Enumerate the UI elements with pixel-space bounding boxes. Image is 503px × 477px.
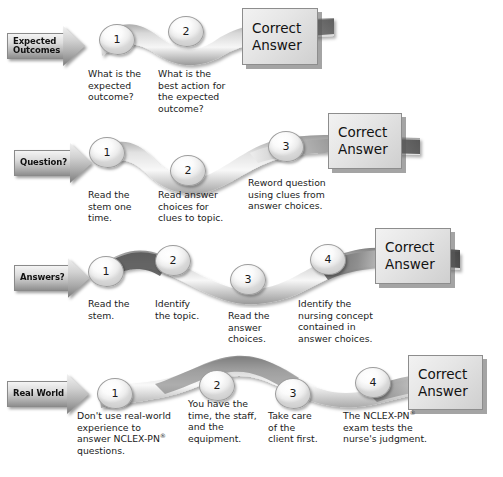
step-bubble-1: 1 <box>97 378 133 409</box>
arrow-body: Question? <box>14 150 71 176</box>
step-number: 2 <box>214 379 221 392</box>
step-caption-3: Take care of the client first. <box>268 410 334 445</box>
step-caption-2: Read answer choices for clues to topic. <box>158 189 236 224</box>
step-number: 1 <box>112 387 119 400</box>
step-number: 3 <box>290 387 297 400</box>
step-caption-1: Read the stem one time. <box>88 189 150 224</box>
step-bubble-3: 3 <box>230 264 266 295</box>
step-number: 2 <box>185 164 192 177</box>
flow-row-expected-outcomes: Expected Outcomes 1 2 Correct Answer Wha… <box>0 0 503 115</box>
arrow-label: Expected Outcomes <box>13 37 60 56</box>
entry-arrow-answers: Answers? <box>14 258 90 298</box>
step-bubble-2: 2 <box>170 155 206 186</box>
step-caption-4: Identify the nursing concept contained i… <box>298 298 398 344</box>
step-bubble-4: 4 <box>310 244 346 275</box>
step-number: 2 <box>170 254 177 267</box>
step-caption-3: Reword question using clues from answer … <box>248 177 340 212</box>
answer-line-2: Answer <box>243 37 317 54</box>
step-number: 2 <box>183 25 190 38</box>
step-caption-1: Don't use real-worldexperience toanswer … <box>77 410 187 456</box>
answer-line-1: Correct <box>376 239 450 256</box>
arrow-body: Real World <box>7 381 68 407</box>
step-bubble-4: 4 <box>355 367 391 398</box>
arrow-body: Answers? <box>14 265 69 291</box>
flow-row-real-world: Real World 1 2 3 4 Correct Answer Don't … <box>0 348 503 477</box>
arrow-head-icon <box>67 374 89 414</box>
correct-answer-box-row-3: Correct Answer <box>375 228 451 284</box>
step-bubble-2: 2 <box>155 245 191 276</box>
step-number: 1 <box>114 33 121 46</box>
step-caption-2: Identify the topic. <box>155 298 221 321</box>
step-number: 4 <box>325 253 332 266</box>
step-caption-2: You have the time, the staff, and the eq… <box>188 398 266 444</box>
correct-answer-box-row-2: Correct Answer <box>328 113 402 169</box>
arrow-label: Answers? <box>20 273 65 283</box>
answer-line-2: Answer <box>409 383 482 400</box>
step-bubble-1: 1 <box>99 24 135 55</box>
step-number: 3 <box>245 273 252 286</box>
correct-answer-box-row-4: Correct Answer <box>408 355 483 410</box>
step-bubble-1: 1 <box>88 256 124 287</box>
entry-arrow-expected-outcomes: Expected Outcomes <box>7 26 85 66</box>
step-bubble-3: 3 <box>275 378 311 409</box>
answer-line-1: Correct <box>409 366 482 383</box>
step-number: 3 <box>283 140 290 153</box>
step-caption-3: Read the answer choices. <box>228 310 290 345</box>
answer-line-2: Answer <box>376 256 450 273</box>
step-caption-4: The NCLEX-PN®exam tests thenurse's judgm… <box>343 410 453 445</box>
step-number: 1 <box>103 265 110 278</box>
entry-arrow-question: Question? <box>14 143 92 183</box>
correct-answer-box-row-1: Correct Answer <box>242 8 318 65</box>
step-number: 1 <box>104 146 111 159</box>
step-caption-1: Read the stem. <box>88 298 150 321</box>
flow-row-answers: Answers? 1 2 3 4 Correct Answer Read the… <box>0 228 503 348</box>
answer-line-1: Correct <box>329 124 401 141</box>
step-bubble-2: 2 <box>199 370 235 401</box>
arrow-label: Real World <box>13 389 64 399</box>
answer-line-1: Correct <box>243 20 317 37</box>
arrow-body: Expected Outcomes <box>7 33 64 59</box>
step-bubble-2: 2 <box>168 16 204 47</box>
step-caption-1: What is the expected outcome? <box>88 68 156 103</box>
step-caption-2: What is the best action for the expected… <box>158 68 238 114</box>
step-number: 4 <box>370 376 377 389</box>
entry-arrow-real-world: Real World <box>7 374 89 414</box>
flow-row-question: Question? 1 2 3 Correct Answer Read the … <box>0 113 503 228</box>
arrow-head-icon <box>68 258 90 298</box>
arrow-label: Question? <box>20 158 67 168</box>
step-bubble-3: 3 <box>268 131 304 162</box>
flow-diagram: Expected Outcomes 1 2 Correct Answer Wha… <box>0 0 503 477</box>
arrow-head-icon <box>63 26 85 66</box>
answer-line-2: Answer <box>329 141 401 158</box>
step-bubble-1: 1 <box>89 137 125 168</box>
